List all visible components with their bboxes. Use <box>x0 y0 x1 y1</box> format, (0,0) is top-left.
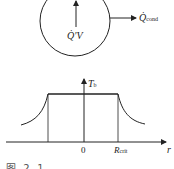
conduction-label: Q̇cond <box>139 13 158 23</box>
right-decay-curve <box>118 94 145 124</box>
left-decay-curve <box>21 94 48 125</box>
x-axis-label: r <box>167 145 171 155</box>
radius-label: Rcrit <box>114 146 128 155</box>
control-volume-circle <box>40 0 110 56</box>
y-axis-label: Tb <box>88 79 97 89</box>
origin-label: 0 <box>81 146 86 155</box>
figure-caption: 图 2-1 …… <box>6 160 75 169</box>
heat-generation-label: Q̇′V <box>67 31 83 41</box>
diagram-canvas <box>0 0 174 169</box>
